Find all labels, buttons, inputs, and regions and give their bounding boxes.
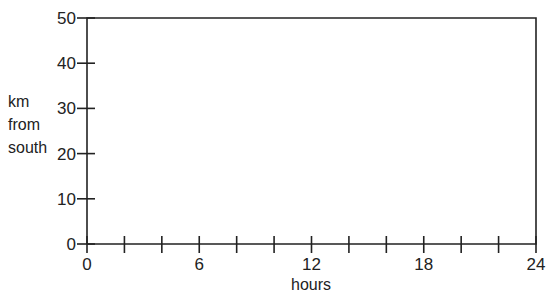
y-tick-label: 50 — [57, 9, 76, 28]
y-axis-label-line: km — [8, 93, 29, 110]
x-tick-label: 0 — [82, 255, 91, 274]
x-axis-label: hours — [291, 276, 331, 293]
y-axis-label-line: from — [8, 116, 40, 133]
plot-frame — [87, 18, 536, 244]
x-tick-label: 6 — [195, 255, 204, 274]
y-tick-label: 0 — [67, 235, 76, 254]
chart: 01020304050 06121824 hours kmfromsouth — [0, 0, 553, 299]
y-axis: 01020304050 — [57, 9, 95, 254]
x-tick-label: 12 — [302, 255, 321, 274]
x-tick-label: 24 — [527, 255, 546, 274]
x-axis: 06121824 — [82, 236, 545, 274]
y-tick-label: 20 — [57, 145, 76, 164]
y-tick-label: 30 — [57, 99, 76, 118]
y-tick-label: 10 — [57, 190, 76, 209]
x-tick-label: 18 — [414, 255, 433, 274]
y-axis-label-line: south — [8, 139, 47, 156]
y-tick-label: 40 — [57, 54, 76, 73]
y-axis-label: kmfromsouth — [8, 93, 47, 156]
